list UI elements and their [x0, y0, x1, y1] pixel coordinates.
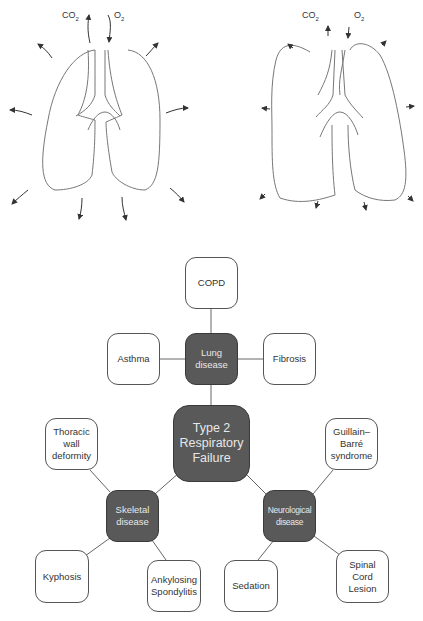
- arrow-o2-in: [108, 15, 110, 42]
- node-guillain-barre-syndrome: Guillain–Barré syndrome: [325, 418, 378, 470]
- right-lung-right-lobe: [339, 44, 405, 201]
- node-thoracic-wall-deformity: Thoracic wall deformity: [45, 418, 98, 470]
- node-kyphosis: Kyphosis: [35, 550, 89, 603]
- co2-label-left: CO2: [62, 10, 79, 22]
- node-copd: COPD: [185, 257, 238, 309]
- edge-sedation-neuro: [258, 540, 274, 560]
- left-lung-left-lobe: [43, 50, 95, 190]
- expansion-arrows-right: [260, 41, 414, 210]
- edge-spinal-neuro: [314, 536, 340, 555]
- arrow-o2-in-right: [348, 27, 349, 38]
- node-sedation: Sedation: [224, 560, 278, 612]
- expansion-arrows-left: [10, 43, 188, 220]
- left-trachea: [76, 50, 120, 130]
- arrow-co2-out: [88, 15, 90, 43]
- figure-canvas: [0, 0, 423, 621]
- co2-label-right: CO2: [302, 10, 319, 22]
- node-skeletal-disease: Skeletal disease: [106, 490, 159, 542]
- node-asthma: Asthma: [107, 333, 160, 385]
- node-neurological-disease: Neurological disease: [263, 490, 316, 542]
- node-ankylosing-spondylitis: Ankylosing Spondylitis: [147, 560, 201, 612]
- left-lung-right-lobe: [106, 50, 160, 190]
- o2-label-right: O2: [354, 10, 364, 22]
- lungs-right: [260, 26, 414, 210]
- node-spinal-cord-lesion: Spinal Cord Lesion: [336, 550, 389, 603]
- node-lung-disease: Lung disease: [185, 333, 238, 385]
- edge-center-neuro: [244, 472, 266, 494]
- edge-guillain-neuro: [313, 470, 333, 494]
- o2-label-left: O2: [114, 10, 124, 22]
- node-type2-respiratory-failure: Type 2 Respiratory Failure: [173, 405, 250, 482]
- right-lung-left-lobe: [272, 45, 335, 201]
- edge-ankylosing-skeletal: [152, 540, 166, 560]
- edge-kyphosis-skeletal: [85, 538, 110, 556]
- lungs-left: [10, 15, 188, 220]
- edge-thoracic-skeletal: [90, 470, 110, 492]
- node-fibrosis: Fibrosis: [263, 333, 316, 385]
